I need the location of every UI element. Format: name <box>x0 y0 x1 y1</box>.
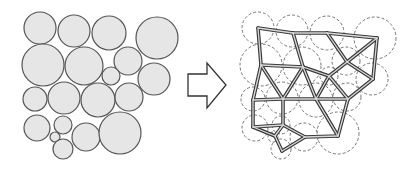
contact-edge-inner <box>347 62 373 79</box>
contact-edge-inner <box>275 136 282 151</box>
contact-edge-inner <box>327 33 347 62</box>
contact-edge-inner <box>293 33 303 67</box>
contact-network-panel <box>0 0 418 173</box>
contact-edge-inner <box>253 65 261 100</box>
contact-edge-inner <box>348 79 373 99</box>
contact-edge-inner <box>329 62 347 76</box>
contact-edge-inner <box>283 67 303 99</box>
contact-edge-inner <box>282 137 305 151</box>
contact-edge-inner <box>253 127 275 136</box>
contact-edge-inner <box>283 125 305 137</box>
contact-edge-inner <box>338 99 348 136</box>
diagram-stage <box>0 0 418 173</box>
contact-edge-inner <box>329 76 348 99</box>
